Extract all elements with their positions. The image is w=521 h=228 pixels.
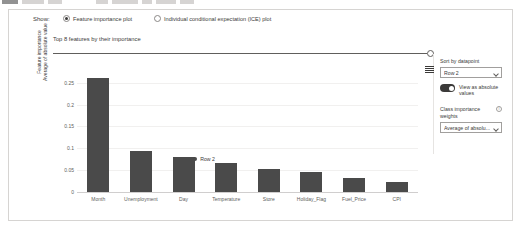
sort-by-datapoint-value: Row 2 bbox=[444, 70, 459, 76]
y-axis-tick-label: 0.2 bbox=[67, 102, 74, 108]
info-icon[interactable]: i bbox=[496, 106, 502, 112]
plot-grid: 00.050.10.150.20.25 bbox=[77, 74, 418, 192]
hamburger-menu-icon[interactable] bbox=[425, 66, 434, 73]
y-axis-title: Feature importance Average of absolute v… bbox=[36, 12, 48, 92]
feature-importance-card: Show: Feature importance plot Individual… bbox=[8, 9, 513, 221]
x-axis-category-label: Month bbox=[91, 196, 105, 202]
x-axis-category-label: Unemployment bbox=[124, 196, 158, 202]
x-axis-category-label: Holiday_Flag bbox=[297, 196, 326, 202]
gridline bbox=[77, 83, 418, 84]
gridline bbox=[77, 148, 418, 149]
top-k-features-slider[interactable] bbox=[53, 50, 434, 58]
legend-label: Row 2 bbox=[200, 156, 215, 162]
bar[interactable] bbox=[386, 182, 408, 192]
view-as-absolute-values-label: View as absolute values bbox=[459, 84, 506, 96]
chevron-down-icon[interactable] bbox=[493, 71, 499, 77]
bar[interactable] bbox=[173, 157, 195, 192]
legend-marker-icon bbox=[193, 157, 197, 161]
bar[interactable] bbox=[87, 78, 109, 193]
radio-ice-plot-label: Individual conditional expectation (ICE)… bbox=[164, 16, 271, 22]
radio-ice-plot-icon[interactable] bbox=[154, 15, 161, 22]
sort-by-datapoint-dropdown[interactable]: Row 2 bbox=[440, 67, 502, 78]
bar-chart: Feature importance Average of absolute v… bbox=[33, 62, 423, 217]
chevron-down-icon[interactable] bbox=[493, 126, 499, 132]
bar[interactable] bbox=[343, 178, 365, 192]
slider-track[interactable] bbox=[53, 53, 427, 54]
gridline bbox=[77, 170, 418, 171]
x-axis-line bbox=[77, 192, 418, 193]
gridline bbox=[77, 105, 418, 106]
class-importance-weights-label: Class importance weights bbox=[440, 106, 490, 120]
y-axis-tick-label: 0 bbox=[71, 189, 74, 195]
bar[interactable] bbox=[258, 169, 280, 192]
sort-by-datapoint-label: Sort by datapoint bbox=[440, 58, 506, 65]
radio-feature-importance-plot[interactable]: Feature importance plot bbox=[63, 15, 132, 22]
y-axis-tick-label: 0.05 bbox=[64, 167, 74, 173]
x-axis-category-label: Store bbox=[263, 196, 275, 202]
bar[interactable] bbox=[300, 172, 322, 192]
gridline bbox=[77, 126, 418, 127]
radio-feature-importance-plot-icon[interactable] bbox=[63, 15, 70, 22]
chart-legend: Row 2 bbox=[9, 156, 399, 162]
class-importance-weights-block: Class importance weights i Average of ab… bbox=[440, 106, 506, 133]
show-options-row: Show: Feature importance plot Individual… bbox=[9, 14, 512, 32]
bar[interactable] bbox=[215, 163, 237, 192]
view-as-absolute-values-row[interactable]: View as absolute values bbox=[440, 84, 506, 96]
y-axis-title-line2: Average of absolute value bbox=[42, 12, 48, 92]
cut-off-toolbar-strip bbox=[0, 0, 521, 7]
x-axis-category-label: Day bbox=[179, 196, 188, 202]
radio-ice-plot[interactable]: Individual conditional expectation (ICE)… bbox=[154, 15, 271, 22]
y-axis-tick-label: 0.1 bbox=[67, 145, 74, 151]
view-as-absolute-values-toggle[interactable] bbox=[440, 84, 455, 92]
y-axis-tick-label: 0.15 bbox=[64, 123, 74, 129]
radio-feature-importance-plot-label: Feature importance plot bbox=[73, 16, 132, 22]
class-importance-weights-value: Average of absolu... bbox=[444, 125, 490, 131]
x-axis-category-label: CPI bbox=[393, 196, 401, 202]
chart-settings-panel: Sort by datapoint Row 2 View as absolute… bbox=[440, 58, 506, 133]
y-axis-tick-label: 0.25 bbox=[64, 80, 74, 86]
class-importance-weights-dropdown[interactable]: Average of absolu... bbox=[440, 122, 502, 133]
chart-title: Top 8 features by their importance bbox=[53, 36, 141, 42]
x-axis-category-label: Fuel_Price bbox=[342, 196, 366, 202]
x-axis-category-label: Temperature bbox=[212, 196, 240, 202]
